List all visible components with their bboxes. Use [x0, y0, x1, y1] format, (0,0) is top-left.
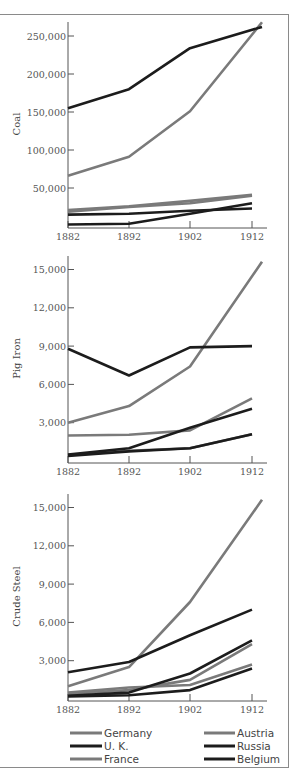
x-tick-label: 1902	[178, 704, 202, 715]
series-line-uk	[68, 610, 252, 673]
legend: Germany U. K. France Austria Russia Belg…	[70, 727, 280, 765]
coal-panel: 50,000100,000150,000200,000250,000188218…	[11, 22, 267, 242]
series-line-uk	[68, 27, 262, 108]
x-tick-label: 1912	[240, 704, 264, 715]
x-tick-label: 1882	[56, 466, 80, 477]
y-axis-label: Coal	[11, 113, 22, 136]
y-tick-label: 50,000	[33, 183, 66, 194]
y-tick-label: 12,000	[33, 302, 66, 313]
y-axis-label: Crude Steel	[11, 566, 22, 626]
y-tick-label: 200,000	[27, 69, 66, 80]
y-tick-label: 3,000	[39, 417, 66, 428]
legend-label-france: France	[104, 753, 139, 765]
x-tick-label: 1912	[240, 466, 264, 477]
series-line-germany	[68, 500, 262, 686]
crude-steel-panel: 3,0006,0009,00012,00015,0001882189219021…	[11, 494, 267, 715]
y-tick-label: 250,000	[27, 31, 66, 42]
pig-iron-panel: 3,0006,0009,00012,00015,0001882189219021…	[11, 256, 267, 477]
y-tick-label: 15,000	[33, 264, 66, 275]
x-tick-label: 1902	[178, 231, 202, 242]
legend-label-belgium: Belgium	[237, 753, 280, 765]
x-tick-label: 1882	[56, 231, 80, 242]
x-tick-label: 1902	[178, 466, 202, 477]
y-axis-label: Pig Iron	[11, 338, 22, 379]
y-tick-label: 150,000	[27, 107, 66, 118]
legend-label-germany: Germany	[104, 727, 152, 739]
y-tick-label: 9,000	[39, 579, 66, 590]
legend-label-austria: Austria	[237, 727, 274, 739]
y-tick-label: 6,000	[39, 379, 66, 390]
industrial-output-charts: 50,000100,000150,000200,000250,000188218…	[0, 0, 295, 775]
x-tick-label: 1892	[117, 466, 141, 477]
series-line-uk	[68, 346, 252, 375]
legend-label-uk: U. K.	[104, 740, 129, 752]
y-tick-label: 12,000	[33, 540, 66, 551]
x-tick-label: 1912	[240, 231, 264, 242]
y-tick-label: 6,000	[39, 617, 66, 628]
y-tick-label: 15,000	[33, 502, 66, 513]
y-tick-label: 9,000	[39, 341, 66, 352]
y-tick-label: 100,000	[27, 145, 66, 156]
legend-label-russia: Russia	[237, 740, 271, 752]
series-line-germany	[68, 262, 262, 423]
x-tick-label: 1892	[117, 231, 141, 242]
x-tick-label: 1882	[56, 704, 80, 715]
x-tick-label: 1892	[117, 704, 141, 715]
y-tick-label: 3,000	[39, 655, 66, 666]
